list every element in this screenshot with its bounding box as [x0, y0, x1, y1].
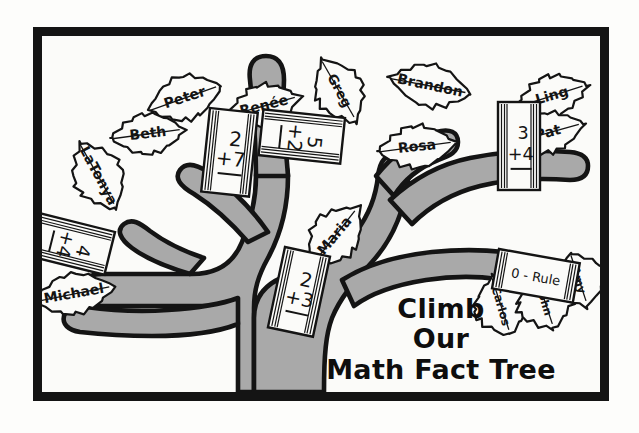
- card-top-number: 3: [518, 123, 529, 143]
- card-3-plus-4: 3+4: [498, 102, 540, 190]
- poster: PeterBethRenéeGregBrandonLingPatLaTonyaR…: [0, 0, 639, 433]
- poster-title: Climb Our Math Fact Tree: [296, 294, 586, 386]
- card-bottom-number: +4: [508, 144, 534, 164]
- leaf-brandon: Brandon: [382, 54, 475, 117]
- poster-frame: PeterBethRenéeGregBrandonLingPatLaTonyaR…: [33, 27, 609, 401]
- title-line-3: Math Fact Tree: [296, 355, 586, 386]
- card-5-plus-2: 5+2: [259, 109, 345, 163]
- card-bottom-number: +2: [282, 122, 308, 153]
- card-2-plus-7: 2+7: [201, 108, 258, 197]
- card-4-plus-4: 4+4: [42, 213, 115, 275]
- card-bottom-number: +7: [215, 145, 247, 172]
- title-line-1: Climb: [296, 294, 586, 325]
- tree-branch-far-left-up: [120, 221, 204, 274]
- title-line-2: Our: [296, 324, 586, 355]
